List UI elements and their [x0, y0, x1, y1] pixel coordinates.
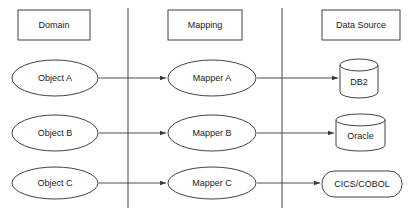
- header-data-source-label: Data Source: [336, 20, 386, 30]
- node-row-c-domain-label: Object C: [37, 178, 73, 188]
- node-row-c-mapping-label: Mapper C: [192, 178, 232, 188]
- node-row-a-datasource-cylinder-top: [340, 59, 378, 71]
- header-domain-label: Domain: [38, 20, 69, 30]
- node-row-b-mapping-label: Mapper B: [192, 128, 231, 138]
- node-row-a-domain-label: Object A: [38, 73, 72, 83]
- diagram-nodes: Object AMapper ADB2Object BMapper BOracl…: [12, 59, 402, 199]
- header-mapping-label: Mapping: [188, 20, 223, 30]
- architecture-diagram: DomainMappingData Source Object AMapper …: [0, 0, 412, 216]
- node-row-b-datasource-cylinder-top: [336, 114, 385, 126]
- node-row-a-mapping-label: Mapper A: [193, 73, 232, 83]
- node-row-a-datasource-label: DB2: [350, 77, 368, 87]
- diagram-canvas: DomainMappingData Source Object AMapper …: [0, 0, 412, 216]
- node-row-b-domain-label: Object B: [38, 128, 73, 138]
- node-row-c-datasource-label: CICS/COBOL: [334, 179, 390, 189]
- column-headers: DomainMappingData Source: [18, 10, 400, 40]
- node-row-b-datasource-label: Oracle: [347, 131, 374, 141]
